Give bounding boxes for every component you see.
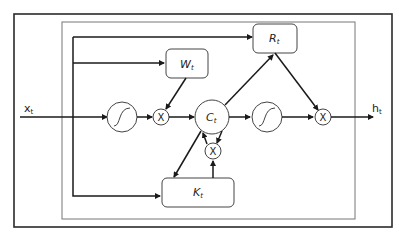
c-to-k <box>174 131 201 177</box>
r-gate-box: Rt <box>253 24 297 53</box>
multiply-node-1: X <box>153 109 169 125</box>
cell-state-node: Ct <box>195 100 229 134</box>
svg-text:X: X <box>158 112 165 123</box>
input-label: xt <box>24 102 34 116</box>
c-to-r <box>225 55 273 105</box>
svg-text:X: X <box>210 146 217 157</box>
multiply-node-3: X <box>315 109 331 125</box>
w-to-x1 <box>166 78 186 109</box>
cell-diagram: xt Wt Rt Kt X Ct X <box>0 0 399 239</box>
sigmoid-icon <box>107 102 137 132</box>
svg-text:X: X <box>320 112 327 123</box>
r-to-x3 <box>275 53 318 110</box>
x2-to-c <box>203 133 207 144</box>
k-gate-box: Kt <box>162 178 234 207</box>
multiply-node-2: X <box>205 143 221 159</box>
output-label: ht <box>372 102 382 116</box>
sigmoid-icon-2 <box>252 102 282 132</box>
w-gate-box: Wt <box>166 49 208 78</box>
